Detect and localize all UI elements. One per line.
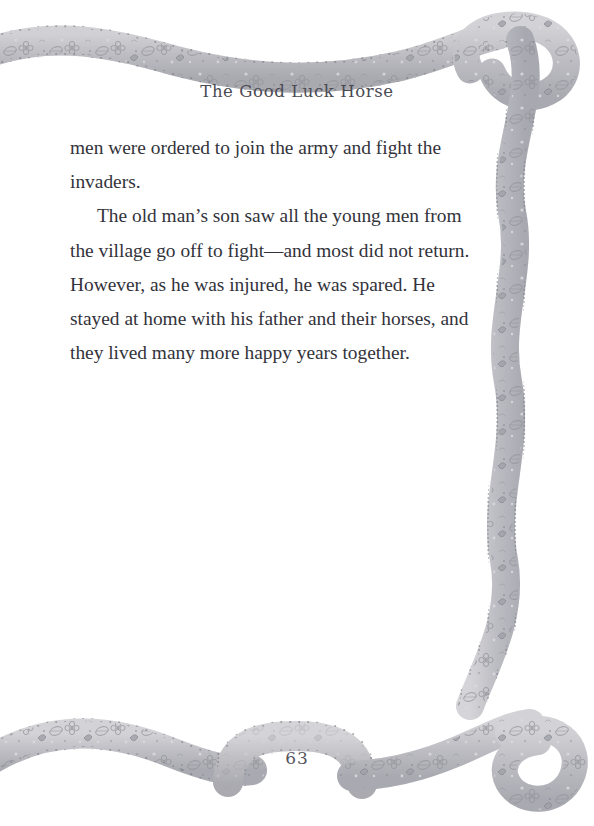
page-number: 63 bbox=[0, 748, 594, 768]
floral-ribbon-border bbox=[0, 0, 594, 826]
paragraph: men were ordered to join the army and fi… bbox=[70, 131, 488, 199]
paragraph: The old man’s son saw all the young men … bbox=[70, 199, 488, 370]
story-body: men were ordered to join the army and fi… bbox=[70, 131, 488, 370]
book-page: The Good Luck Horse men were ordered to … bbox=[0, 0, 594, 826]
ribbon-svg bbox=[0, 0, 594, 826]
ribbon-top-band bbox=[0, 20, 500, 92]
story-title: The Good Luck Horse bbox=[0, 82, 594, 101]
